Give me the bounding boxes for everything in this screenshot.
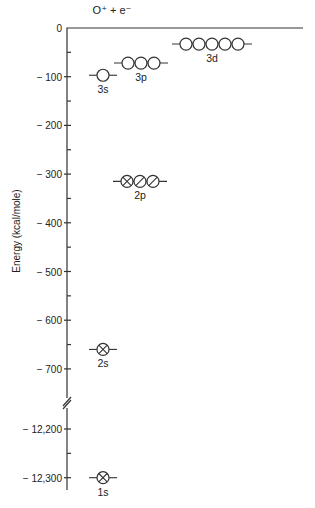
tick-label: 0 (56, 23, 62, 34)
y-axis (63, 28, 303, 490)
orbital-empty-icon (122, 57, 134, 69)
diagram-canvas: O⁺ + e⁻ Energy (kcal/mole) 0− 100− 200− … (0, 0, 315, 508)
tick-label: − 100 (37, 72, 63, 83)
orbital-empty-icon (135, 57, 147, 69)
tick-label: − 600 (37, 315, 63, 326)
level-label: 2p (134, 189, 146, 201)
tick-label: − 200 (37, 120, 63, 131)
tick-label: − 400 (37, 218, 63, 229)
level-3s: 3s (89, 69, 117, 95)
level-2s: 2s (89, 343, 117, 369)
tick-label: − 500 (37, 267, 63, 278)
y-axis-ticks: 0− 100− 200− 300− 400− 500− 600− 700− 12… (23, 23, 71, 484)
energy-levels: 1s2s2p3s3p3d (89, 38, 252, 498)
y-axis-label: Energy (kcal/mole) (11, 189, 22, 272)
orbital-empty-icon (193, 38, 205, 50)
diagram-title: O⁺ + e⁻ (93, 4, 132, 16)
orbital-empty-icon (97, 69, 109, 81)
level-label: 3s (97, 83, 108, 95)
level-1s: 1s (89, 472, 117, 498)
energy-level-diagram: O⁺ + e⁻ Energy (kcal/mole) 0− 100− 200− … (0, 0, 315, 508)
level-3d: 3d (172, 38, 252, 64)
level-3p: 3p (114, 57, 168, 83)
level-label: 2s (97, 357, 108, 369)
level-2p: 2p (113, 175, 167, 201)
tick-label: − 12,200 (23, 424, 63, 435)
orbital-empty-icon (206, 38, 218, 50)
tick-label: − 300 (37, 169, 63, 180)
tick-label: − 12,300 (23, 473, 63, 484)
level-label: 3d (206, 52, 218, 64)
axis-break-icon (63, 397, 71, 409)
orbital-empty-icon (180, 38, 192, 50)
level-label: 3p (135, 71, 147, 83)
orbital-empty-icon (232, 38, 244, 50)
orbital-empty-icon (148, 57, 160, 69)
level-label: 1s (97, 486, 108, 498)
orbital-empty-icon (219, 38, 231, 50)
tick-label: − 700 (37, 364, 63, 375)
